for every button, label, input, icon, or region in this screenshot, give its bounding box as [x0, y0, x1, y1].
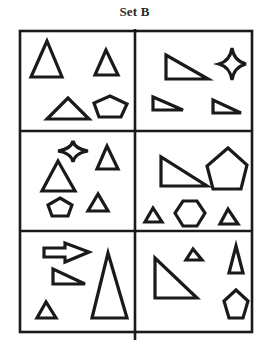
flat-triangle-icon [47, 98, 89, 119]
small-triangle-icon [88, 194, 108, 211]
narrow-triangle-icon [229, 246, 243, 273]
large-triangle-icon [31, 41, 62, 77]
panel-2 [153, 48, 246, 113]
pentagon-icon [94, 96, 127, 117]
medium-triangle-icon [42, 161, 75, 191]
panel-6 [155, 246, 248, 318]
small-right-triangle-icon [153, 97, 183, 110]
star-icon [219, 48, 246, 80]
small-triangle-icon [95, 50, 118, 75]
triangle-icon [97, 146, 118, 169]
hexagon-icon [175, 201, 205, 226]
right-triangle-icon [166, 55, 208, 79]
tall-triangle-icon [92, 253, 127, 318]
panel-4 [145, 148, 247, 226]
shape-grid-figure [0, 0, 269, 350]
pentagon-icon [224, 290, 248, 318]
small-triangle-icon [37, 302, 56, 318]
panel-5 [37, 243, 127, 318]
pentagon-icon [48, 198, 72, 216]
small-right-triangle-icon [213, 100, 241, 113]
star-icon [58, 141, 88, 162]
small-triangle-icon [186, 249, 202, 260]
small-triangle-icon [220, 209, 238, 224]
right-triangle-icon [161, 157, 207, 186]
panel-1 [31, 41, 127, 119]
right-triangle-icon [155, 258, 197, 298]
small-triangle-icon [145, 208, 162, 222]
large-pentagon-icon [207, 148, 247, 189]
panel-3 [42, 141, 118, 216]
right-triangle-icon [53, 269, 85, 284]
arrow-right-icon [44, 243, 89, 262]
